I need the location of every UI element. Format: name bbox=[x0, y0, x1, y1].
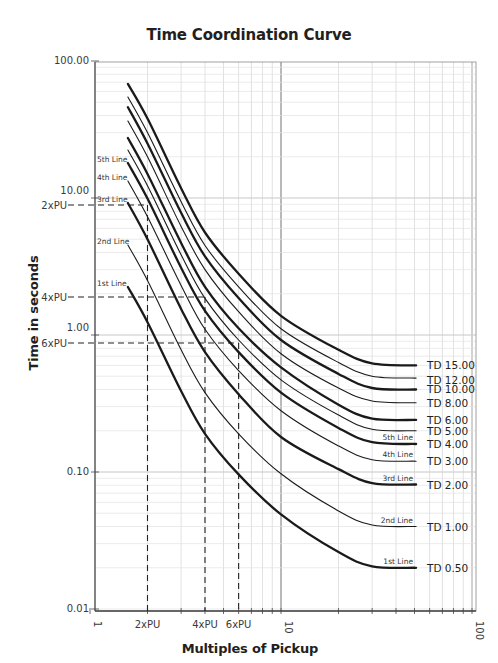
curve-line-label-right: 1st Line bbox=[383, 557, 413, 566]
curve-line-label-right: 2nd Line bbox=[381, 516, 414, 525]
curve-line-label-right: 4th Line bbox=[383, 450, 414, 459]
curve-line-label-left: 1st Line bbox=[97, 279, 127, 288]
y-tick-label: 100.00 bbox=[54, 55, 89, 66]
curve-line-label-left: 5th Line bbox=[97, 155, 128, 164]
td-label: TD 2.00 bbox=[426, 479, 468, 491]
grid-lines bbox=[95, 62, 476, 611]
td-label: TD 5.00 bbox=[426, 425, 468, 437]
td-label: TD 10.00 bbox=[426, 383, 475, 395]
td-label: TD 15.00 bbox=[426, 359, 475, 371]
td-label: TD 8.00 bbox=[426, 397, 468, 409]
y-tick-label: 0.01 bbox=[67, 603, 89, 614]
axis-ticks: 1101002xPU4xPU6xPU100.0010.001.000.100.0… bbox=[54, 55, 485, 640]
y-tick-label: 0.10 bbox=[67, 466, 89, 477]
axes bbox=[95, 62, 476, 611]
td-label: TD 1.00 bbox=[426, 521, 468, 533]
curve-line-label-left: 4th Line bbox=[97, 173, 128, 182]
time-coordination-plot: 1101002xPU4xPU6xPU100.0010.001.000.100.0… bbox=[0, 0, 498, 663]
pickup-y-label: 2xPU bbox=[41, 200, 67, 211]
td-label: TD 4.00 bbox=[426, 438, 468, 450]
x-tick-label-pu: 6xPU bbox=[226, 619, 252, 630]
td-label: TD 3.00 bbox=[426, 455, 468, 467]
curve-line-label-left: 2nd Line bbox=[97, 237, 130, 246]
x-tick-label-pu: 4xPU bbox=[192, 619, 218, 630]
y-tick-label: 1.00 bbox=[67, 322, 89, 333]
x-tick-label: 1 bbox=[92, 621, 103, 627]
td-label: TD 0.50 bbox=[426, 562, 468, 574]
y-tick-label: 10.00 bbox=[60, 185, 89, 196]
curve-line-label-left: 3rd Line bbox=[97, 195, 128, 204]
plot-frame bbox=[95, 62, 476, 611]
curve-labels: TD 15.00TD 12.00TD 10.00TD 8.00TD 6.00TD… bbox=[97, 155, 475, 574]
x-tick-label-pu: 2xPU bbox=[135, 619, 161, 630]
pickup-y-label: 4xPU bbox=[41, 292, 67, 303]
curve-line-label-right: 5th Line bbox=[383, 433, 414, 442]
curve-line-label-right: 3rd Line bbox=[383, 474, 414, 483]
pickup-y-label: 6xPU bbox=[41, 338, 67, 349]
x-tick-label: 100 bbox=[474, 621, 485, 640]
x-tick-label: 10 bbox=[283, 621, 294, 634]
